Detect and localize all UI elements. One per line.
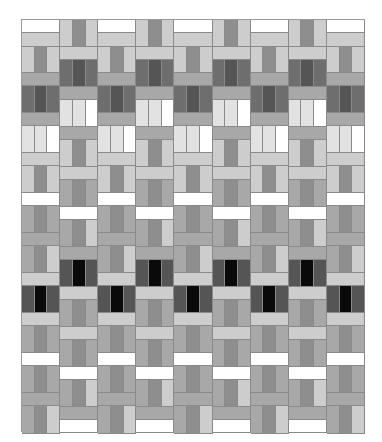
vertical-strip <box>301 20 314 47</box>
vertical-strip <box>276 47 289 73</box>
vertical-strip <box>124 326 137 353</box>
vertical-strip <box>263 47 276 73</box>
vertical-strip-group <box>22 206 60 233</box>
vertical-strip <box>200 246 213 273</box>
horizontal-strip <box>213 127 251 140</box>
vertical-strip <box>251 406 264 434</box>
vertical-strip <box>340 246 353 273</box>
vertical-strip-group <box>174 86 212 113</box>
horizontal-strip <box>136 207 174 220</box>
vertical-strip-group <box>60 140 98 167</box>
horizontal-strip <box>174 33 212 47</box>
horizontal-strip <box>213 247 251 260</box>
vertical-strip <box>35 166 48 193</box>
vertical-strip <box>314 220 327 247</box>
quilt-column <box>251 20 289 432</box>
vertical-strip <box>213 60 226 87</box>
horizontal-strip <box>136 127 174 140</box>
vertical-strip <box>124 206 137 233</box>
vertical-strip <box>47 86 60 113</box>
horizontal-strip <box>136 167 174 180</box>
horizontal-strip <box>289 247 327 260</box>
vertical-strip <box>162 140 175 167</box>
vertical-strip <box>35 326 48 353</box>
horizontal-strip <box>327 73 365 86</box>
horizontal-strip <box>174 193 212 206</box>
vertical-strip-group <box>251 86 289 113</box>
quilt-column <box>60 20 98 432</box>
vertical-strip <box>22 246 35 273</box>
quilt-column <box>289 20 327 432</box>
vertical-strip <box>251 86 264 113</box>
vertical-strip <box>213 140 226 167</box>
vertical-strip <box>187 246 200 273</box>
vertical-strip-group <box>136 300 174 327</box>
vertical-strip <box>111 246 124 273</box>
vertical-strip-group <box>327 366 365 393</box>
vertical-strip-group <box>213 20 251 47</box>
vertical-strip <box>289 100 302 127</box>
vertical-strip <box>60 380 73 407</box>
vertical-strip <box>314 300 327 327</box>
vertical-strip <box>86 340 99 367</box>
vertical-strip <box>162 380 175 407</box>
vertical-strip <box>327 126 340 153</box>
vertical-strip <box>238 380 251 407</box>
horizontal-strip <box>327 393 365 406</box>
vertical-strip <box>213 20 226 47</box>
vertical-strip <box>187 86 200 113</box>
vertical-strip <box>327 326 340 353</box>
vertical-strip <box>174 126 187 153</box>
horizontal-strip <box>22 193 60 206</box>
horizontal-strip <box>327 20 365 33</box>
vertical-strip <box>35 126 48 153</box>
horizontal-strip <box>327 193 365 206</box>
vertical-strip-group <box>22 126 60 153</box>
vertical-strip <box>111 366 124 393</box>
vertical-strip <box>225 140 238 167</box>
vertical-strip-group <box>289 260 327 287</box>
vertical-strip <box>60 300 73 327</box>
vertical-strip <box>47 246 60 273</box>
vertical-strip-group <box>213 340 251 367</box>
vertical-strip <box>162 20 175 47</box>
vertical-strip <box>200 47 213 73</box>
vertical-strip-group <box>174 126 212 153</box>
horizontal-strip <box>60 420 98 433</box>
vertical-strip <box>289 180 302 207</box>
vertical-strip <box>340 166 353 193</box>
vertical-strip <box>60 100 73 127</box>
vertical-strip <box>289 140 302 167</box>
vertical-strip-group <box>213 180 251 207</box>
vertical-strip <box>22 86 35 113</box>
horizontal-strip <box>98 393 136 406</box>
vertical-strip-group <box>136 260 174 287</box>
vertical-strip <box>35 47 48 73</box>
vertical-strip <box>60 260 73 287</box>
vertical-strip <box>47 126 60 153</box>
horizontal-strip <box>251 73 289 86</box>
vertical-strip <box>60 60 73 87</box>
vertical-strip <box>251 366 264 393</box>
vertical-strip <box>22 47 35 73</box>
vertical-strip <box>340 86 353 113</box>
vertical-strip <box>213 340 226 367</box>
vertical-strip <box>86 60 99 87</box>
quilt-column <box>213 20 251 432</box>
vertical-strip <box>263 126 276 153</box>
vertical-strip <box>213 100 226 127</box>
vertical-strip <box>174 286 187 313</box>
horizontal-strip <box>98 353 136 366</box>
vertical-strip <box>352 206 365 233</box>
vertical-strip <box>213 220 226 247</box>
vertical-strip <box>136 20 149 47</box>
horizontal-strip <box>136 247 174 260</box>
vertical-strip <box>238 180 251 207</box>
horizontal-strip <box>213 420 251 433</box>
vertical-strip <box>314 380 327 407</box>
vertical-strip <box>136 220 149 247</box>
horizontal-strip <box>289 167 327 180</box>
vertical-strip <box>314 140 327 167</box>
horizontal-strip <box>136 87 174 100</box>
vertical-strip-group <box>98 47 136 73</box>
